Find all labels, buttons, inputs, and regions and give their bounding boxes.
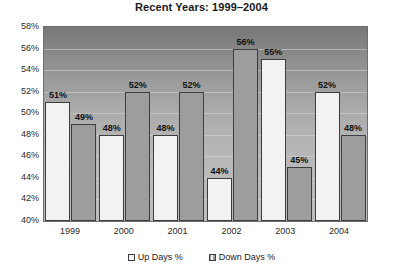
y-axis-tick-label: 58%	[3, 21, 39, 31]
bar-value-label: 45%	[290, 155, 308, 165]
bar-2003-down[interactable]: 45%	[287, 167, 312, 221]
bar-2004-up[interactable]: 52%	[315, 92, 340, 221]
bar-value-label: 52%	[129, 80, 147, 90]
bar-2001-down[interactable]: 52%	[179, 92, 204, 221]
y-axis-tick-label: 42%	[3, 193, 39, 203]
bar-group: 44%56%	[206, 27, 260, 221]
bar-1999-down[interactable]: 49%	[71, 124, 96, 221]
chart-title: Recent Years: 1999–2004	[0, 1, 403, 13]
y-axis-tick-label: 44%	[3, 172, 39, 182]
legend-swatch-up	[128, 254, 135, 261]
bar-2002-down[interactable]: 56%	[233, 49, 258, 221]
y-axis-tick-label: 48%	[3, 129, 39, 139]
x-axis-tick-label: 2002	[221, 226, 241, 236]
x-axis-tick-label: 2003	[275, 226, 295, 236]
bar-group: 48%52%	[152, 27, 206, 221]
bar-group: 55%45%	[259, 27, 313, 221]
bar-value-label: 48%	[103, 123, 121, 133]
bar-2000-down[interactable]: 52%	[125, 92, 150, 221]
bar-chart: Recent Years: 1999–2004 40%42%44%46%48%5…	[0, 0, 403, 279]
bar-value-label: 44%	[210, 166, 228, 176]
bar-group: 48%52%	[98, 27, 152, 221]
bar-value-label: 48%	[344, 123, 362, 133]
y-axis-tick-label: 54%	[3, 64, 39, 74]
x-axis-tick-label: 2001	[168, 226, 188, 236]
bar-2002-up[interactable]: 44%	[207, 178, 232, 221]
x-axis-tick-label: 1999	[60, 226, 80, 236]
bar-group: 52%48%	[313, 27, 367, 221]
chart-legend: Up Days %Down Days %	[0, 252, 403, 262]
bar-2000-up[interactable]: 48%	[99, 135, 124, 221]
bar-value-label: 52%	[183, 80, 201, 90]
legend-label: Down Days %	[219, 252, 276, 262]
y-axis-tick-label: 46%	[3, 150, 39, 160]
bar-value-label: 51%	[49, 90, 67, 100]
y-axis-tick-label: 50%	[3, 107, 39, 117]
bar-2003-up[interactable]: 55%	[261, 59, 286, 221]
bar-value-label: 55%	[264, 47, 282, 57]
bar-1999-up[interactable]: 51%	[45, 102, 70, 221]
legend-label: Up Days %	[138, 252, 183, 262]
x-axis-tick-label: 2000	[114, 226, 134, 236]
bar-value-label: 52%	[318, 80, 336, 90]
bar-2004-down[interactable]: 48%	[341, 135, 366, 221]
bar-2001-up[interactable]: 48%	[153, 135, 178, 221]
bar-value-label: 48%	[157, 123, 175, 133]
legend-swatch-down	[209, 254, 216, 261]
bar-value-label: 49%	[75, 112, 93, 122]
y-axis-tick-label: 40%	[3, 215, 39, 225]
y-axis-tick-label: 56%	[3, 43, 39, 53]
legend-item[interactable]: Down Days %	[209, 252, 276, 262]
x-axis-tick-label: 2004	[329, 226, 349, 236]
y-axis-tick-label: 52%	[3, 86, 39, 96]
x-axis: 199920002001200220032004	[43, 224, 368, 242]
plot-area: 51%49%48%52%48%52%44%56%55%45%52%48%	[43, 26, 368, 222]
bar-value-label: 56%	[236, 37, 254, 47]
y-axis: 40%42%44%46%48%50%52%54%56%58%	[0, 26, 39, 222]
legend-item[interactable]: Up Days %	[128, 252, 183, 262]
bar-group: 51%49%	[44, 27, 98, 221]
